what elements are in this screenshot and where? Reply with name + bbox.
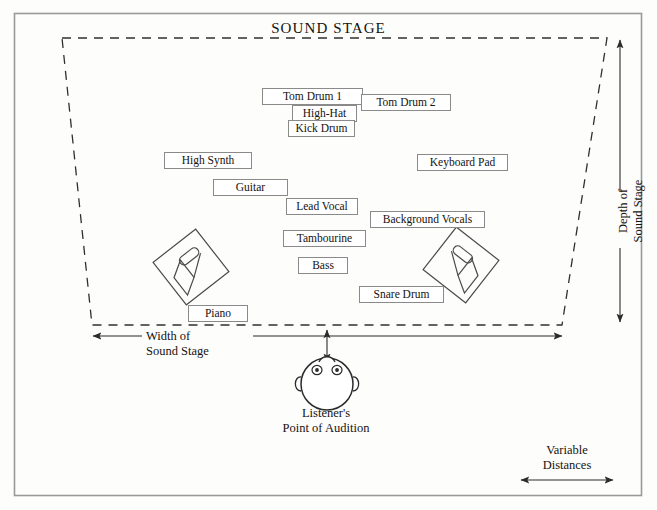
depth-label-line2: Sound Stage (631, 180, 645, 243)
instrument-label-snare-drum: Snare Drum (359, 286, 444, 303)
listener-head (295, 357, 358, 410)
instrument-label-piano: Piano (188, 305, 248, 322)
instrument-label-background-vocals: Background Vocals (370, 211, 485, 228)
listener-label-line2: Point of Audition (283, 421, 370, 435)
instrument-label-tom-drum-2: Tom Drum 2 (361, 94, 451, 111)
width-label-line1: Width of (146, 329, 190, 343)
instrument-label-high-synth: High Synth (164, 152, 252, 169)
depth-of-sound-stage-label: Depth of Sound Stage (616, 176, 646, 246)
variable-label-line1: Variable (546, 443, 588, 457)
variable-distances-label: Variable Distances (512, 443, 622, 473)
width-label-line2: Sound Stage (146, 344, 209, 358)
left-speaker (153, 229, 229, 305)
page-title: SOUND STAGE (0, 20, 657, 37)
instrument-label-guitar: Guitar (213, 179, 288, 196)
instrument-label-kick-drum: Kick Drum (288, 120, 355, 137)
instrument-label-bass: Bass (298, 257, 348, 274)
listener-label-line1: Listener's (302, 406, 350, 420)
sound-stage-boundary (62, 38, 607, 325)
depth-label-line1: Depth of (616, 189, 630, 233)
instrument-label-lead-vocal: Lead Vocal (286, 198, 358, 215)
variable-label-line2: Distances (543, 458, 592, 472)
instrument-label-tambourine: Tambourine (283, 230, 366, 247)
sound-stage-diagram: SOUND STAGE Tom Drum 1Tom Drum 2High-Hat… (0, 0, 657, 510)
instrument-label-tom-drum-1: Tom Drum 1 (262, 88, 363, 105)
width-of-sound-stage-label: Width of Sound Stage (146, 329, 209, 359)
instrument-label-keyboard-pad: Keyboard Pad (417, 154, 508, 171)
listener-point-of-audition-label: Listener's Point of Audition (246, 406, 406, 436)
